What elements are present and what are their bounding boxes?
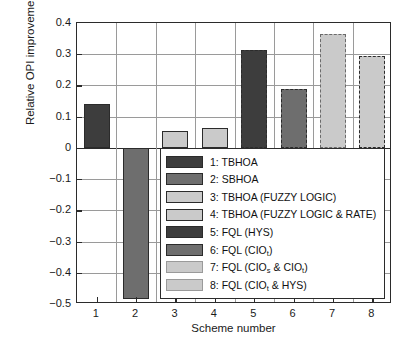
y-tick-label: −0.3 [37,235,71,247]
y-tick-mark [77,148,82,149]
bar-scheme-5[interactable] [241,50,267,148]
bar-scheme-1[interactable] [84,104,110,148]
y-tick-mark [77,242,82,243]
legend-item-3: 3: TBHOA (FUZZY LOGIC) [166,188,379,206]
legend-label-8: 8: FQL (CIOt & HYS) [210,280,307,291]
legend-item-5: 5: FQL (HYS) [166,223,379,241]
y-tick-mark [77,117,82,118]
legend-item-8: 8: FQL (CIOt & HYS) [166,276,379,294]
bar-scheme-6[interactable] [281,89,307,148]
y-tick-label: 0 [37,141,71,153]
legend-label-2: 2: SBHOA [210,174,258,185]
legend-label-6: 6: FQL (CIOt) [210,245,272,256]
x-tick-mark [136,297,137,302]
legend-swatch-7 [166,261,203,273]
x-tick-label: 8 [359,307,383,319]
bar-scheme-3[interactable] [162,131,188,148]
x-tick-label: 4 [202,307,226,319]
y-tick-label: 0.3 [37,47,71,59]
legend-swatch-3 [166,191,203,203]
legend-swatch-2 [166,173,203,185]
legend-swatch-4 [166,209,203,221]
x-tick-label: 1 [84,307,108,319]
x-tick-label: 3 [162,307,186,319]
y-tick-label: −0.1 [37,172,71,184]
bar-scheme-7[interactable] [320,34,346,148]
legend-item-7: 7: FQL (CIOs & CIOt) [166,259,379,277]
y-tick-label: −0.2 [37,203,71,215]
legend-item-6: 6: FQL (CIOt) [166,241,379,259]
x-tick-mark [97,297,98,302]
gridline-vertical [116,23,117,302]
legend-item-4: 4: TBHOA (FUZZY LOGIC & RATE) [166,206,379,224]
legend-label-5: 5: FQL (HYS) [210,227,273,238]
y-axis-label: Relative OPI improvement [24,0,36,168]
x-axis-label: Scheme number [76,322,391,334]
y-tick-label: −0.4 [37,266,71,278]
bar-scheme-4[interactable] [202,128,228,148]
x-tick-label: 7 [320,307,344,319]
y-tick-label: −0.5 [37,297,71,309]
legend-swatch-8 [166,279,203,291]
legend-label-3: 3: TBHOA (FUZZY LOGIC) [210,192,336,203]
bar-scheme-8[interactable] [359,56,385,148]
legend-label-7: 7: FQL (CIOs & CIOt) [210,262,308,273]
legend-label-1: 1: TBHOA [210,157,258,168]
bar-scheme-2[interactable] [123,148,149,299]
gridline-vertical [156,23,157,302]
legend-swatch-6 [166,244,203,256]
legend-swatch-5 [166,226,203,238]
legend-swatch-1 [166,156,203,168]
legend-item-1: 1: TBHOA [166,153,379,171]
y-tick-label: 0.1 [37,110,71,122]
y-tick-mark [77,210,82,211]
x-tick-label: 5 [241,307,265,319]
x-tick-label: 6 [281,307,305,319]
legend-item-2: 2: SBHOA [166,171,379,189]
legend-label-4: 4: TBHOA (FUZZY LOGIC & RATE) [210,209,376,220]
y-tick-label: 0.2 [37,78,71,90]
y-tick-mark [77,179,82,180]
y-tick-label: 0.4 [37,16,71,28]
chart-legend: 1: TBHOA2: SBHOA3: TBHOA (FUZZY LOGIC)4:… [160,148,385,299]
bar-chart-figure: Relative OPI improvement 0.40.30.20.10−0… [0,0,405,343]
y-tick-mark [77,85,82,86]
x-tick-label: 2 [123,307,147,319]
y-tick-mark [77,273,82,274]
y-tick-mark [77,54,82,55]
